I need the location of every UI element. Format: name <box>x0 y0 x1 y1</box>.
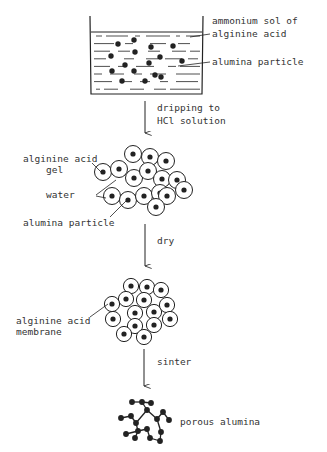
alumina-particle <box>159 176 164 181</box>
step-label-sinter: sinter <box>157 356 192 367</box>
coated-particle <box>125 146 142 163</box>
alumina-grain <box>154 416 160 422</box>
alumina-particle <box>100 169 105 174</box>
alumina-particle <box>148 44 153 49</box>
step-label-dry: dry <box>157 235 174 246</box>
alumina-particle <box>109 193 114 198</box>
alumina-particle <box>109 301 114 306</box>
beaker <box>90 16 203 94</box>
alumina-particle <box>144 284 149 289</box>
membrane-cluster <box>104 278 177 344</box>
alumina-particle <box>164 302 169 307</box>
alumina-particle <box>141 334 146 339</box>
alumina-particle <box>142 78 147 83</box>
alumina-particle <box>167 316 172 321</box>
coated-particle <box>120 192 137 209</box>
alumina-grain <box>147 435 153 441</box>
alumina-particle <box>174 177 179 182</box>
alumina-particle <box>179 58 184 63</box>
coated-particle <box>104 188 121 205</box>
coated-particle <box>136 329 151 344</box>
alumina-grain <box>144 407 150 413</box>
alumina-particle <box>158 74 163 79</box>
alumina-particle <box>141 297 146 302</box>
coated-particle <box>118 291 133 306</box>
alumina-particle <box>170 43 175 48</box>
label-gel-alumina: alumina particle <box>23 217 115 228</box>
alumina-particle <box>181 187 186 192</box>
process-diagram: ammonium sol of alginine acid alumina pa… <box>0 0 327 452</box>
alumina-particle <box>116 166 121 171</box>
alumina-particle <box>108 53 113 58</box>
alumina-grain <box>129 399 135 405</box>
alumina-particle <box>141 193 146 198</box>
coated-particle <box>95 164 112 181</box>
alumina-grain <box>148 400 154 406</box>
alumina-grain <box>123 431 129 437</box>
coated-particle <box>162 311 177 326</box>
alumina-particle <box>158 287 163 292</box>
alumina-grain <box>128 413 134 419</box>
alumina-particle <box>119 78 124 83</box>
alumina-particle <box>145 168 150 173</box>
alumina-particle <box>122 62 127 67</box>
alumina-particle <box>164 193 169 198</box>
alumina-particle <box>132 49 137 54</box>
alumina-grain <box>166 417 172 423</box>
alumina-particle <box>153 204 158 209</box>
coated-particle <box>159 297 174 312</box>
porous-network <box>118 399 172 444</box>
coated-particle <box>153 282 168 297</box>
label-membrane: membrane <box>16 326 62 337</box>
alumina-particle <box>131 37 136 42</box>
alumina-particle <box>151 322 156 327</box>
label-membrane-alginine: alginine acid <box>16 315 90 326</box>
leader-line <box>190 34 210 37</box>
coated-particle <box>158 153 175 170</box>
alumina-particle <box>151 309 156 314</box>
alumina-particles <box>108 37 184 83</box>
alumina-particle <box>115 41 120 46</box>
alumina-particle <box>110 316 115 321</box>
gel-cluster <box>95 146 193 216</box>
coated-particle <box>116 326 131 341</box>
alumina-grain <box>133 420 139 426</box>
label-gel-alginine: alginine acid <box>23 153 97 164</box>
alumina-particle <box>132 323 137 328</box>
alumina-grain <box>132 435 138 441</box>
step-label-hcl: HCl solution <box>157 115 226 126</box>
alumina-particle <box>121 331 126 336</box>
label-ammonium-sol: ammonium sol of <box>212 15 298 26</box>
alumina-grain <box>158 429 164 435</box>
alumina-particle <box>131 68 136 73</box>
alumina-particle <box>125 197 130 202</box>
alumina-grain <box>160 409 166 415</box>
alumina-particle <box>163 158 168 163</box>
coated-particle <box>148 199 165 216</box>
coated-particle <box>104 296 119 311</box>
alumina-grain <box>135 428 141 434</box>
alumina-grain <box>118 415 124 421</box>
label-alumina-particle: alumina particle <box>212 56 304 67</box>
alumina-particle <box>131 175 136 180</box>
alumina-particle <box>152 72 157 77</box>
alumina-particle <box>123 296 128 301</box>
coated-particle <box>105 311 120 326</box>
alumina-particle <box>109 68 114 73</box>
alumina-grain <box>157 438 163 444</box>
alumina-particle <box>132 310 137 315</box>
coated-particle <box>176 182 193 199</box>
coated-particle <box>146 317 161 332</box>
label-water: water <box>46 189 75 200</box>
label-porous-alumina: porous alumina <box>180 416 260 427</box>
coated-particle <box>111 161 128 178</box>
alumina-particle <box>130 151 135 156</box>
alumina-grain <box>144 426 150 432</box>
alumina-particle <box>157 54 162 59</box>
coated-particle <box>136 292 151 307</box>
alumina-particle <box>147 154 152 159</box>
alumina-particle <box>128 283 133 288</box>
label-gel: gel <box>46 164 63 175</box>
label-alginine-acid: alginine acid <box>212 28 286 39</box>
leader-line <box>90 304 108 317</box>
